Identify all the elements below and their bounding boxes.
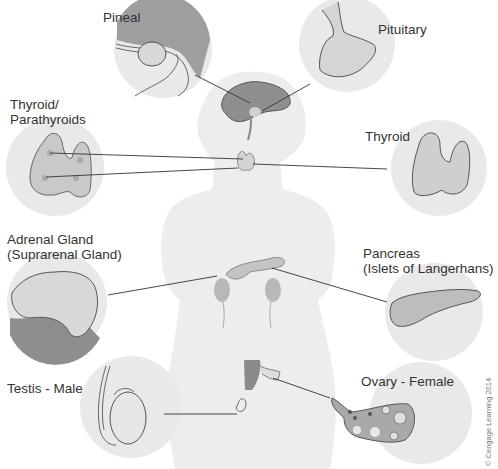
body-thyroid <box>237 152 254 171</box>
label-pineal: Pineal <box>103 10 141 25</box>
label-pancreas-line1: Pancreas <box>363 246 420 261</box>
label-pancreas-line2: (Islets of Langerhans) <box>363 261 494 276</box>
label-thyroid-parathyroids-line1: Thyroid/ <box>10 97 59 112</box>
label-thyroid: Thyroid <box>365 129 410 144</box>
label-adrenal-line2: (Suprarenal Gland) <box>7 247 122 262</box>
copyright-credit: © Cengage Learning 2014 <box>484 378 493 466</box>
endocrine-diagram: Pineal Pituitary Thyroid/ Parathyroids T… <box>0 0 498 469</box>
label-ovary: Ovary - Female <box>361 374 454 389</box>
label-thyroid-parathyroids-line2: Parathyroids <box>10 112 86 127</box>
label-pituitary: Pituitary <box>378 22 427 37</box>
label-adrenal-line1: Adrenal Gland <box>7 232 93 247</box>
label-testis: Testis - Male <box>7 381 83 396</box>
